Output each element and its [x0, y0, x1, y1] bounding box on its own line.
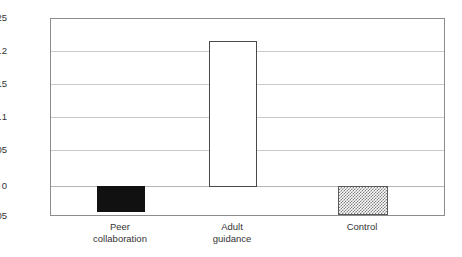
x-label-adult-guidance: Adult guidance [182, 221, 282, 245]
x-label-peer-collaboration: Peer collaboration [70, 221, 170, 245]
y-tick-label: 0.05 [0, 145, 7, 155]
y-tick-label: 0.25 [0, 13, 7, 23]
y-tick-label: 0.15 [0, 79, 7, 89]
plot-area [50, 18, 445, 216]
bar-chart-figure: 0.25 0.2 0.15 0.1 0.05 0 -0.05 Peer coll… [0, 0, 462, 257]
y-tick-label: 0.1 [0, 112, 7, 122]
x-label-control: Control [312, 221, 412, 233]
bar-control[interactable] [338, 186, 388, 215]
y-tick-label: -0.05 [0, 211, 7, 221]
bar-adult-guidance[interactable] [209, 41, 257, 187]
bar-peer-collaboration[interactable] [97, 186, 145, 212]
y-tick-label: 0 [0, 181, 7, 191]
y-tick-label: 0.2 [0, 46, 7, 56]
